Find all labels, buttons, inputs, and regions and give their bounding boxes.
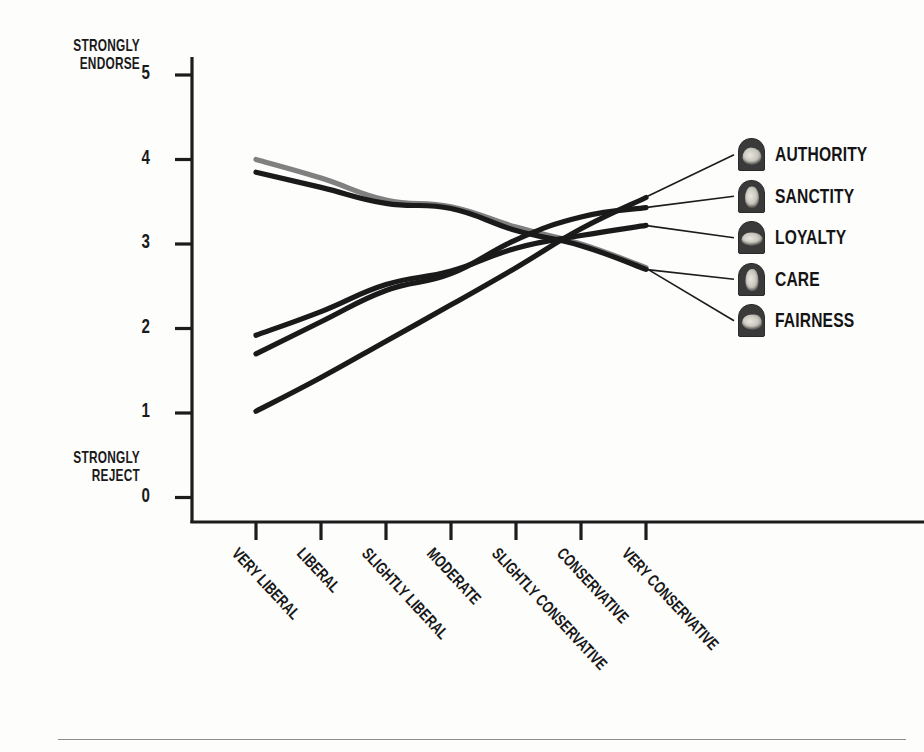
legend-item-fairness[interactable]: FAIRNESS [738, 300, 893, 342]
legend-item-loyalty[interactable]: LOYALTY [738, 217, 893, 259]
hand-glyph [742, 314, 762, 329]
series-line-loyalty [256, 225, 646, 335]
chart-legend: AUTHORITYSANCTITYLOYALTYCAREFAIRNESS [738, 134, 893, 342]
legend-item-label: SANCTITY [775, 185, 854, 208]
y-axis-tick-label: 0 [131, 483, 150, 507]
hand-glyph [745, 187, 759, 208]
y-axis-tick-label: 2 [131, 314, 150, 338]
y-axis-tick-label: 1 [131, 398, 150, 422]
legend-item-label: LOYALTY [775, 226, 846, 249]
hand-care-icon [738, 263, 765, 296]
hand-authority-icon [738, 138, 765, 171]
legend-item-sanctity[interactable]: SANCTITY [738, 176, 893, 218]
legend-item-label: FAIRNESS [775, 309, 854, 332]
hand-glyph [741, 232, 762, 245]
hand-glyph [745, 269, 758, 291]
hand-loyalty-icon [738, 221, 765, 254]
line-chart-plot [0, 0, 924, 752]
series-lines [256, 160, 646, 412]
figure-container: STRONGLY ENDORSE STRONGLY REJECT 012345 … [0, 0, 924, 752]
hand-glyph [742, 147, 761, 164]
y-axis-tick-label: 4 [131, 145, 150, 169]
legend-item-care[interactable]: CARE [738, 259, 893, 301]
hand-sanctity-icon [738, 180, 765, 213]
hand-fairness-icon [738, 304, 765, 337]
y-axis-tick-label: 5 [131, 60, 150, 84]
leader-line-sanctity [645, 196, 734, 207]
legend-item-label: CARE [775, 268, 820, 291]
y-axis-tick-label: 3 [131, 229, 150, 253]
legend-item-authority[interactable]: AUTHORITY [738, 134, 893, 176]
series-line-authority [256, 198, 646, 412]
leader-line-loyalty [645, 225, 734, 237]
legend-item-label: AUTHORITY [775, 143, 867, 166]
series-line-care [256, 172, 646, 269]
footer-divider [58, 739, 906, 740]
leader-line-authority [645, 155, 734, 198]
leader-line-fairness [645, 268, 734, 321]
legend-leader-lines [645, 155, 734, 321]
series-line-sanctity [256, 208, 646, 354]
leader-line-care [645, 269, 734, 279]
